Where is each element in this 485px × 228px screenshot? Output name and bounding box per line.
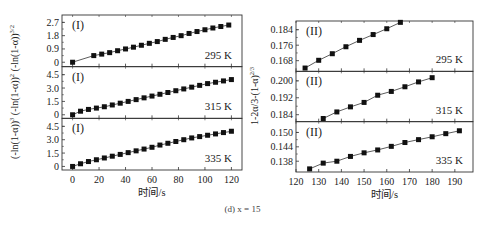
y-tick-label: 0.184	[271, 24, 294, 35]
x-tick-label: 140	[334, 176, 349, 187]
data-point	[107, 50, 112, 55]
data-point	[179, 33, 184, 38]
subplot-315k: 0.1840.1920.200(II)315 K	[271, 71, 474, 121]
data-point	[78, 109, 83, 114]
data-point	[334, 109, 339, 114]
temperature-label: 315 K	[436, 104, 463, 116]
data-point	[226, 23, 231, 28]
model-label: (I)	[72, 121, 84, 135]
data-point	[131, 45, 136, 50]
x-tick-label: 150	[357, 176, 372, 187]
data-point	[197, 83, 202, 88]
data-point	[118, 152, 123, 157]
y-tick-label: 0	[54, 57, 59, 68]
y-tick-label: 0.200	[271, 75, 294, 86]
data-point	[181, 86, 186, 91]
fit-line	[323, 78, 432, 119]
data-point	[173, 88, 178, 93]
y-tick-label: 0.184	[271, 109, 294, 120]
data-point	[86, 107, 91, 112]
temperature-label: 295 K	[205, 49, 232, 61]
data-point	[202, 27, 207, 32]
x-tick-label: 100	[197, 174, 212, 185]
data-point	[157, 143, 162, 148]
data-point	[371, 32, 376, 37]
data-point	[123, 46, 128, 51]
data-point	[134, 148, 139, 153]
temperature-label: 315 K	[205, 100, 232, 112]
data-point	[343, 44, 348, 49]
data-point	[218, 24, 223, 29]
data-point	[375, 147, 380, 152]
x-tick-label: 0	[70, 174, 75, 185]
data-point	[197, 134, 202, 139]
data-point	[205, 81, 210, 86]
data-point	[402, 84, 407, 89]
x-tick-label: 80	[173, 174, 183, 185]
data-point	[165, 90, 170, 95]
data-point	[316, 58, 321, 63]
data-point	[86, 159, 91, 164]
x-axis-label: 时间/s	[371, 188, 398, 200]
data-point	[443, 131, 448, 136]
data-point	[94, 106, 99, 111]
data-point	[375, 93, 380, 98]
model-label: (I)	[72, 18, 84, 32]
data-point	[155, 39, 160, 44]
x-tick-label: 120	[289, 176, 304, 187]
model-label: (I)	[72, 70, 84, 84]
data-point	[147, 41, 152, 46]
data-point	[150, 145, 155, 150]
y-tick-label: 3.0	[47, 83, 60, 94]
y-tick-label: 1.8	[47, 30, 60, 41]
y-tick-label: 0	[54, 161, 59, 172]
y-tick-label: 0.176	[271, 40, 294, 51]
x-tick-label: 120	[224, 174, 239, 185]
data-point	[213, 80, 218, 85]
temperature-label: 335 K	[436, 154, 463, 166]
data-point	[99, 52, 104, 57]
right-panel-model-II: 0.1680.1760.184(II)295 K0.1840.1920.200(…	[271, 20, 474, 200]
figure-caption: (d) x = 15	[0, 204, 485, 214]
temperature-label: 335 K	[205, 152, 232, 164]
data-point	[402, 140, 407, 145]
model-label: (II)	[306, 74, 322, 88]
data-point	[94, 157, 99, 162]
y-tick-label: 0.192	[271, 92, 294, 103]
data-point	[173, 139, 178, 144]
data-point	[163, 37, 168, 42]
data-point	[357, 38, 362, 43]
data-point	[389, 89, 394, 94]
x-tick-label: 60	[147, 174, 157, 185]
data-point	[321, 161, 326, 166]
data-point	[91, 53, 96, 58]
model-label: (II)	[306, 125, 322, 139]
data-point	[334, 159, 339, 164]
data-point	[70, 164, 75, 169]
y-tick-label: 0.144	[271, 141, 294, 152]
data-point	[362, 150, 367, 155]
subplot-295k: 00.91.82.7(I)295 K	[47, 15, 243, 68]
subplot-335k: 0.1380.1440.150(II)335 K	[271, 122, 474, 172]
y-tick-label: 3.0	[47, 134, 60, 145]
data-point	[362, 100, 367, 105]
model-label: (II)	[306, 24, 322, 38]
subplot-295k: 0.1680.1760.184(II)295 K	[271, 20, 474, 71]
data-point	[150, 94, 155, 99]
data-point	[210, 25, 215, 30]
data-point	[195, 29, 200, 34]
y-tick-label: 0.138	[271, 156, 294, 167]
data-point	[165, 141, 170, 146]
data-point	[307, 166, 312, 171]
y-tick-label: 1.5	[47, 96, 60, 107]
y-tick-label: 0.150	[271, 127, 294, 138]
data-point	[389, 144, 394, 149]
data-point	[102, 104, 107, 109]
x-tick-label: 190	[447, 176, 462, 187]
data-point	[457, 128, 462, 133]
data-point	[330, 51, 335, 56]
x-tick-label: 170	[402, 176, 417, 187]
x-tick-label: 160	[379, 176, 394, 187]
data-point	[321, 116, 326, 121]
data-point	[110, 102, 115, 107]
